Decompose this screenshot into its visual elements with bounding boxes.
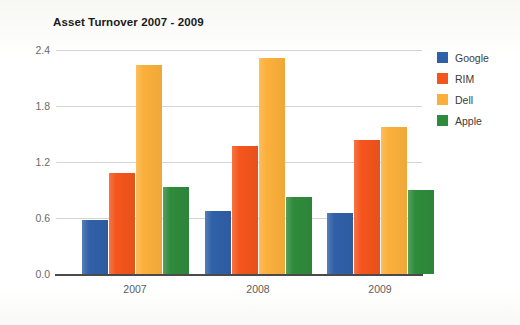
bar-apple-2009[interactable] (408, 190, 434, 274)
y-axis: 0.00.61.21.82.4 (8, 49, 50, 275)
bar-rim-2008[interactable] (232, 146, 258, 274)
legend-swatch-icon (437, 115, 448, 126)
bar-shading (163, 187, 189, 274)
bar-shading (109, 173, 135, 274)
legend-item-apple[interactable]: Apple (437, 111, 517, 130)
bar-group (82, 49, 190, 275)
y-tick-label: 1.2 (10, 156, 50, 168)
legend-item-rim[interactable]: RIM (437, 69, 517, 88)
bar-shading (408, 190, 434, 274)
bar-rim-2009[interactable] (354, 140, 380, 274)
x-tick-label: 2008 (246, 283, 269, 295)
bar-shading (136, 65, 162, 274)
bar-google-2009[interactable] (327, 213, 353, 274)
chart-title: Asset Turnover 2007 - 2009 (53, 16, 204, 28)
legend-swatch-icon (437, 94, 448, 105)
bar-rim-2007[interactable] (109, 173, 135, 274)
chart-legend: GoogleRIMDellApple (437, 48, 517, 132)
bar-google-2008[interactable] (205, 211, 231, 274)
bar-group (205, 49, 313, 275)
x-tick-label: 2009 (368, 283, 391, 295)
bar-apple-2008[interactable] (286, 197, 312, 274)
bar-shading (327, 213, 353, 274)
bar-apple-2007[interactable] (163, 187, 189, 274)
plot-area (56, 49, 422, 275)
bar-dell-2009[interactable] (381, 127, 407, 274)
bar-dell-2008[interactable] (259, 58, 285, 274)
bar-shading (259, 58, 285, 274)
legend-label: RIM (455, 73, 474, 85)
bar-shading (232, 146, 258, 274)
y-tick-label: 0.0 (10, 268, 50, 280)
bar-google-2007[interactable] (82, 220, 108, 274)
y-tick-label: 2.4 (10, 44, 50, 56)
y-tick-label: 0.6 (10, 212, 50, 224)
legend-item-dell[interactable]: Dell (437, 90, 517, 109)
legend-label: Apple (455, 115, 482, 127)
legend-label: Google (455, 52, 489, 64)
chart-container: Asset Turnover 2007 - 2009 0.00.61.21.82… (0, 0, 520, 325)
legend-swatch-icon (437, 52, 448, 63)
y-tick-label: 1.8 (10, 100, 50, 112)
bar-shading (354, 140, 380, 274)
bar-group (327, 49, 435, 275)
bar-shading (381, 127, 407, 274)
x-axis-line (55, 274, 423, 276)
legend-swatch-icon (437, 73, 448, 84)
bar-shading (82, 220, 108, 274)
bar-shading (205, 211, 231, 274)
bar-shading (286, 197, 312, 274)
legend-label: Dell (455, 94, 473, 106)
x-tick-label: 2007 (123, 283, 146, 295)
legend-item-google[interactable]: Google (437, 48, 517, 67)
bar-dell-2007[interactable] (136, 65, 162, 274)
